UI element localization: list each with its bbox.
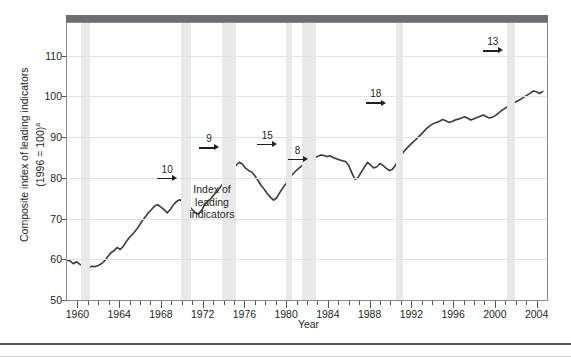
annotation-arrow-icon (196, 144, 222, 152)
y-tick-label: 110 (36, 51, 62, 61)
x-tick-mark-minor (130, 301, 131, 305)
plot-area: Index of leading indicators 1091581813 (66, 22, 548, 301)
annotation-arrow-icon (363, 99, 389, 107)
x-tick-mark-major (203, 301, 204, 308)
y-tick-label: 70 (36, 214, 62, 224)
y-tick-label: 100 (36, 91, 62, 101)
x-tick-mark-major (244, 301, 245, 308)
x-tick-mark-minor (213, 301, 214, 305)
y-tick-mark (62, 219, 66, 220)
x-tick-mark-minor (265, 301, 266, 305)
annotation-label: 8 (285, 145, 311, 156)
x-tick-mark-major (537, 301, 538, 308)
y-tick-mark (62, 300, 66, 301)
x-tick-mark-minor (307, 301, 308, 305)
annotation-8: 8 (285, 145, 311, 164)
series-caption-line1: Index of (193, 183, 230, 195)
y-tick-mark (62, 178, 66, 179)
annotation-label: 18 (363, 88, 389, 99)
gridline (67, 96, 547, 97)
annotation-arrow-icon (480, 47, 506, 55)
x-tick-mark-major (286, 301, 287, 308)
x-tick-mark-minor (443, 301, 444, 305)
x-tick-mark-minor (109, 301, 110, 305)
annotation-label: 15 (254, 130, 280, 141)
x-tick-mark-minor (224, 301, 225, 305)
x-tick-mark-minor (422, 301, 423, 305)
y-axis-ticks: 5060708090100110 (30, 0, 62, 357)
annotation-15: 15 (254, 130, 280, 149)
gridline (67, 56, 547, 57)
annotation-label: 13 (480, 36, 506, 47)
annotation-9: 9 (196, 133, 222, 152)
x-tick-mark-major (370, 301, 371, 308)
x-tick-mark-minor (150, 301, 151, 305)
x-tick-mark-minor (516, 301, 517, 305)
annotation-label: 10 (154, 164, 180, 175)
x-tick-mark-minor (98, 301, 99, 305)
series-caption-line3: indicators (190, 208, 235, 220)
x-tick-mark-minor (390, 301, 391, 305)
y-tick-label: 90 (36, 132, 62, 142)
gridline (67, 137, 547, 138)
x-tick-mark-major (119, 301, 120, 308)
x-tick-mark-major (77, 301, 78, 308)
y-tick-mark (62, 96, 66, 97)
x-tick-mark-major (495, 301, 496, 308)
x-tick-mark-minor (192, 301, 193, 305)
annotation-10: 10 (154, 164, 180, 183)
x-tick-mark-minor (432, 301, 433, 305)
footer-rule-primary (0, 343, 571, 345)
x-axis-title: Year (0, 318, 571, 330)
x-tick-mark-minor (401, 301, 402, 305)
chart-figure: Composite index of leading indicators (1… (0, 0, 571, 357)
x-tick-mark-minor (380, 301, 381, 305)
x-tick-mark-minor (338, 301, 339, 305)
x-tick-mark-minor (484, 301, 485, 305)
gridline (67, 178, 547, 179)
x-tick-mark-minor (88, 301, 89, 305)
annotation-13: 13 (480, 36, 506, 55)
y-tick-mark (62, 137, 66, 138)
annotation-arrow-icon (154, 175, 180, 183)
x-tick-mark-minor (474, 301, 475, 305)
x-tick-mark-minor (171, 301, 172, 305)
y-tick-mark (62, 56, 66, 57)
x-tick-mark-minor (317, 301, 318, 305)
x-tick-mark-major (328, 301, 329, 308)
y-tick-label: 50 (36, 295, 62, 305)
y-tick-label: 60 (36, 254, 62, 264)
series-caption-line2: leading (195, 196, 229, 208)
x-tick-mark-minor (526, 301, 527, 305)
series-caption: Index of leading indicators (179, 183, 245, 221)
x-tick-mark-minor (464, 301, 465, 305)
x-tick-mark-minor (234, 301, 235, 305)
annotation-label: 9 (196, 133, 222, 144)
x-tick-mark-minor (255, 301, 256, 305)
annotation-arrow-icon (285, 156, 311, 164)
gridline (67, 219, 547, 220)
x-tick-mark-major (411, 301, 412, 308)
gridline (67, 259, 547, 260)
y-axis-title-line1: Composite index of leading indicators (17, 68, 29, 243)
x-tick-mark-minor (359, 301, 360, 305)
y-tick-label: 80 (36, 173, 62, 183)
x-tick-mark-minor (140, 301, 141, 305)
x-tick-mark-major (161, 301, 162, 308)
annotation-arrow-icon (254, 141, 280, 149)
x-tick-mark-minor (297, 301, 298, 305)
x-tick-mark-major (453, 301, 454, 308)
y-tick-mark (62, 259, 66, 260)
annotation-18: 18 (363, 88, 389, 107)
x-tick-mark-minor (276, 301, 277, 305)
x-tick-mark-minor (349, 301, 350, 305)
x-tick-mark-minor (182, 301, 183, 305)
x-tick-mark-minor (505, 301, 506, 305)
